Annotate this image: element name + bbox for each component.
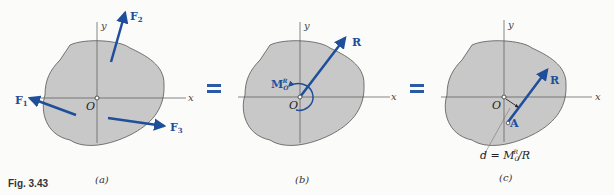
svg-text:O: O	[492, 99, 501, 112]
svg-text:y: y	[100, 20, 107, 31]
svg-text:O: O	[86, 100, 95, 113]
svg-text:O: O	[289, 99, 298, 112]
origin-point	[298, 95, 302, 99]
svg-text:(b): (b)	[295, 174, 309, 185]
equals-sign-2	[410, 84, 424, 93]
svg-text:x: x	[391, 91, 397, 102]
svg-text:F3: F3	[170, 121, 183, 135]
origin-point	[95, 96, 99, 100]
svg-text:y: y	[507, 19, 514, 30]
panel-b: R x y O MOR (b)	[238, 20, 397, 185]
rigid-body	[43, 41, 164, 146]
origin-point	[502, 95, 506, 99]
svg-text:y: y	[303, 20, 310, 31]
panel-c: R O A x y d = MOR/R (c)	[441, 19, 601, 183]
svg-text:x: x	[595, 91, 601, 102]
svg-text:(a): (a)	[95, 174, 109, 185]
equals-sign-1	[207, 84, 221, 93]
svg-text:A: A	[509, 117, 519, 130]
figure-label: Fig. 3.43	[8, 178, 48, 189]
svg-text:R: R	[352, 36, 362, 49]
svg-text:x: x	[188, 92, 194, 103]
svg-text:F1: F1	[15, 94, 28, 108]
svg-text:MOR: MOR	[271, 77, 289, 91]
svg-text:d = MOR/R: d = MOR/R	[480, 148, 530, 162]
svg-text:R: R	[550, 74, 560, 87]
svg-text:(c): (c)	[499, 172, 513, 183]
rigid-body	[445, 41, 566, 146]
panel-a: x y O F2 F1 F3 (a)	[15, 10, 194, 185]
svg-text:F2: F2	[130, 10, 143, 24]
equivalent-force-systems-diagram: x y O F2 F1 F3 (a) R x y O MOR (b)	[0, 0, 614, 195]
